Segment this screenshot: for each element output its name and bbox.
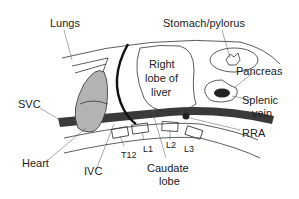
splenic-vein-oval xyxy=(214,89,230,98)
vertebra-l1 xyxy=(132,123,149,134)
anatomy-diagram: Lungs Stomach/pylorus Right lobe of live… xyxy=(0,0,299,199)
label-l1: L1 xyxy=(143,144,153,154)
label-right-lobe-3: liver xyxy=(151,86,172,98)
label-caudate-1: Caudate xyxy=(147,162,189,174)
label-l3: L3 xyxy=(184,144,194,154)
label-caudate-2: lobe xyxy=(159,175,180,187)
stomach-leader xyxy=(222,30,230,58)
label-svc: SVC xyxy=(18,98,41,110)
l1-leader xyxy=(142,132,144,140)
lungs-leader xyxy=(64,30,72,60)
label-right-lobe-2: lobe of xyxy=(145,72,179,84)
heart-leader xyxy=(48,128,86,160)
svc-leader xyxy=(40,108,60,120)
label-lungs: Lungs xyxy=(50,17,80,29)
label-rra: RRA xyxy=(242,127,266,139)
label-heart: Heart xyxy=(22,157,49,169)
spine-lower xyxy=(64,137,260,158)
label-t12: T12 xyxy=(121,150,137,160)
label-l2: L2 xyxy=(166,140,176,150)
label-pancreas: Pancreas xyxy=(236,65,283,77)
rra-dot xyxy=(183,113,190,120)
ivc-leader xyxy=(96,124,114,170)
label-stomach: Stomach/pylorus xyxy=(163,17,245,29)
label-splenic-1: Splenic xyxy=(242,94,279,106)
pylorus-star xyxy=(226,53,240,65)
caudate-leader xyxy=(152,110,166,158)
label-ivc: IVC xyxy=(84,165,102,177)
label-right-lobe-1: Right xyxy=(149,58,175,70)
label-splenic-2: vein xyxy=(252,107,272,119)
t12-leader xyxy=(120,136,124,146)
